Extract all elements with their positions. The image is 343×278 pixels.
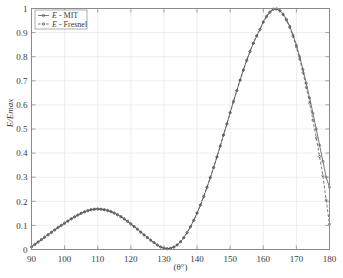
gridlines [32,9,330,250]
svg-text:0.6: 0.6 [16,100,28,110]
legend-label-1[interactable]: E - Fresnel [51,20,88,29]
plot-canvas: 9010011012013014015016017018000.10.20.30… [0,0,343,278]
svg-text:0.1: 0.1 [16,221,27,231]
svg-text:0.9: 0.9 [16,28,28,38]
x-axis-label-text: (θ°) [156,262,188,272]
svg-text:0.4: 0.4 [16,148,28,158]
svg-text:1: 1 [23,4,28,14]
x-axis-label: (θ°) [0,262,343,272]
y-axis-label: E/Emax [5,83,15,143]
chart-figure: 9010011012013014015016017018000.10.20.30… [0,0,343,278]
svg-text:0.8: 0.8 [16,52,28,62]
svg-text:0.7: 0.7 [16,76,28,86]
legend[interactable]: E - MITE - Fresnel [35,10,88,29]
svg-text:0.2: 0.2 [16,197,27,207]
series-line-0 [32,9,330,249]
svg-text:0: 0 [23,245,28,255]
svg-text:0.5: 0.5 [16,124,28,134]
svg-text:0.3: 0.3 [16,172,28,182]
